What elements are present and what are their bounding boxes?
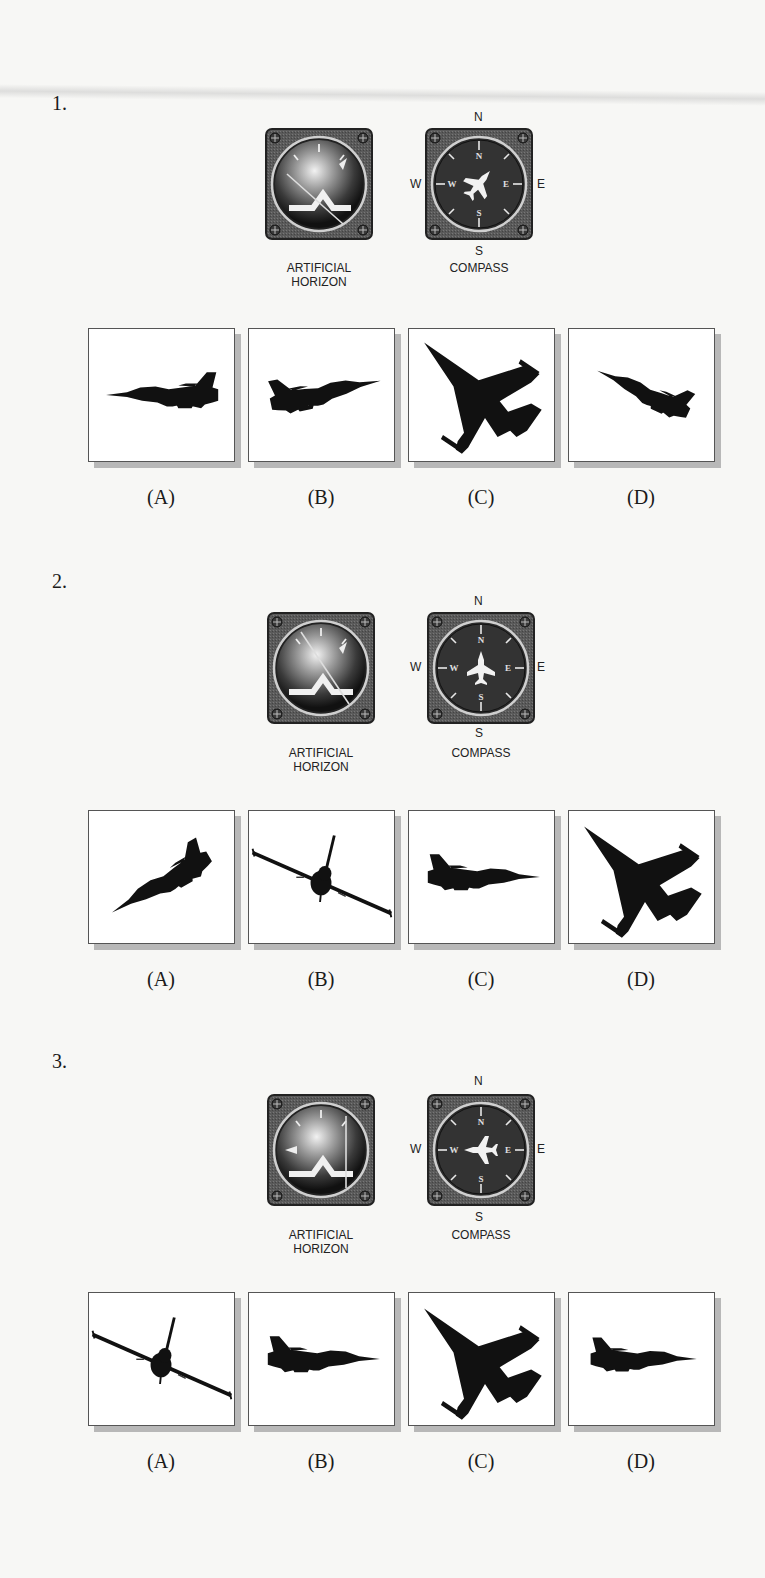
option-1c[interactable] <box>408 328 555 462</box>
option-1b[interactable] <box>248 328 395 462</box>
option-2a[interactable] <box>88 810 235 944</box>
option-3d-label: (D) <box>611 1450 671 1473</box>
compass-label: COMPASS <box>419 261 539 275</box>
option-1b-label: (B) <box>291 486 351 509</box>
jet-side-view-icon <box>428 854 540 890</box>
option-2c[interactable] <box>408 810 555 944</box>
option-2b-label: (B) <box>291 968 351 991</box>
compass-north-label: N <box>474 110 483 124</box>
jet-side-view-icon <box>268 1336 380 1372</box>
option-2a-label: (A) <box>131 968 191 991</box>
compass-north-label: N <box>474 594 483 608</box>
jet-side-view-icon <box>591 1337 697 1371</box>
option-1d-label: (D) <box>611 486 671 509</box>
option-1a-label: (A) <box>131 486 191 509</box>
compass-instrument <box>425 128 533 240</box>
option-3b[interactable] <box>248 1292 395 1426</box>
option-3d[interactable] <box>568 1292 715 1426</box>
option-2b[interactable] <box>248 810 395 944</box>
compass-instrument <box>427 612 535 724</box>
option-3c-label: (C) <box>451 1450 511 1473</box>
jet-top-view-icon <box>584 827 702 938</box>
artificial-horizon-instrument <box>267 612 375 724</box>
compass-west-label: W <box>410 660 421 674</box>
question-number-2: 2. <box>52 570 67 593</box>
jet-side-view-icon <box>592 352 697 424</box>
compass-west-label: W <box>410 177 421 191</box>
compass-east-label: E <box>537 660 545 674</box>
compass-label: COMPASS <box>421 1228 541 1242</box>
option-2c-label: (C) <box>451 968 511 991</box>
jet-side-view-icon <box>101 837 216 924</box>
jet-head-on-icon <box>93 1318 232 1400</box>
compass-south-label: S <box>475 244 483 258</box>
compass-east-label: E <box>537 1142 545 1156</box>
artificial-horizon-instrument <box>265 128 373 240</box>
compass-label: COMPASS <box>421 746 541 760</box>
artificial-horizon-label: ARTIFICIAL HORIZON <box>261 1228 381 1256</box>
question-number-3: 3. <box>52 1050 67 1073</box>
compass-north-label: N <box>474 1074 483 1088</box>
option-3c[interactable] <box>408 1292 555 1426</box>
jet-side-view-icon <box>106 372 218 408</box>
option-1a[interactable] <box>88 328 235 462</box>
option-3a[interactable] <box>88 1292 235 1426</box>
jet-head-on-icon <box>253 836 392 918</box>
option-3b-label: (B) <box>291 1450 351 1473</box>
jet-side-view-icon <box>266 358 383 417</box>
artificial-horizon-instrument <box>267 1094 375 1206</box>
option-1d[interactable] <box>568 328 715 462</box>
option-3a-label: (A) <box>131 1450 191 1473</box>
compass-instrument <box>427 1094 535 1206</box>
option-2d-label: (D) <box>611 968 671 991</box>
artificial-horizon-label: ARTIFICIAL HORIZON <box>261 746 381 774</box>
scan-smudge <box>0 84 765 106</box>
compass-south-label: S <box>475 726 483 740</box>
option-2d[interactable] <box>568 810 715 944</box>
artificial-horizon-label: ARTIFICIAL HORIZON <box>259 261 379 289</box>
question-number-1: 1. <box>52 92 67 115</box>
compass-west-label: W <box>410 1142 421 1156</box>
compass-east-label: E <box>537 177 545 191</box>
jet-top-view-icon <box>424 343 542 454</box>
jet-top-view-icon <box>424 1309 542 1420</box>
option-1c-label: (C) <box>451 486 511 509</box>
compass-south-label: S <box>475 1210 483 1224</box>
